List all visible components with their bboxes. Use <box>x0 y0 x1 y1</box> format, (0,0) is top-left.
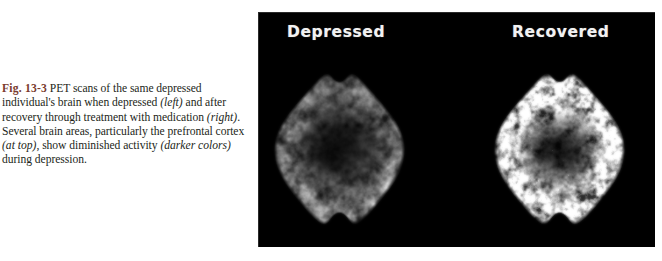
caption-emphasis-at-top: (at top) <box>2 139 36 152</box>
caption-emphasis-left: (left) <box>160 96 183 109</box>
scan-label-recovered: Recovered <box>512 23 610 41</box>
brain-scan-depressed <box>258 59 424 239</box>
brain-scan-depressed-image <box>258 59 424 239</box>
caption-emphasis-right: (right) <box>207 111 237 124</box>
brain-scan-recovered <box>474 59 644 239</box>
figure-number: Fig. 13-3 <box>2 82 47 95</box>
caption-text-5: during depression. <box>2 153 87 166</box>
panel-bottom-margin <box>258 239 655 247</box>
caption-text-4: , show diminished activity <box>36 139 160 152</box>
brain-scan-recovered-image <box>474 59 644 239</box>
caption-emphasis-darker-colors: (darker colors) <box>160 139 231 152</box>
scan-label-depressed: Depressed <box>287 23 385 41</box>
figure-caption: Fig. 13-3 PET scans of the same depresse… <box>2 82 250 168</box>
pet-scan-figure: Depressed Recovered <box>258 12 655 247</box>
